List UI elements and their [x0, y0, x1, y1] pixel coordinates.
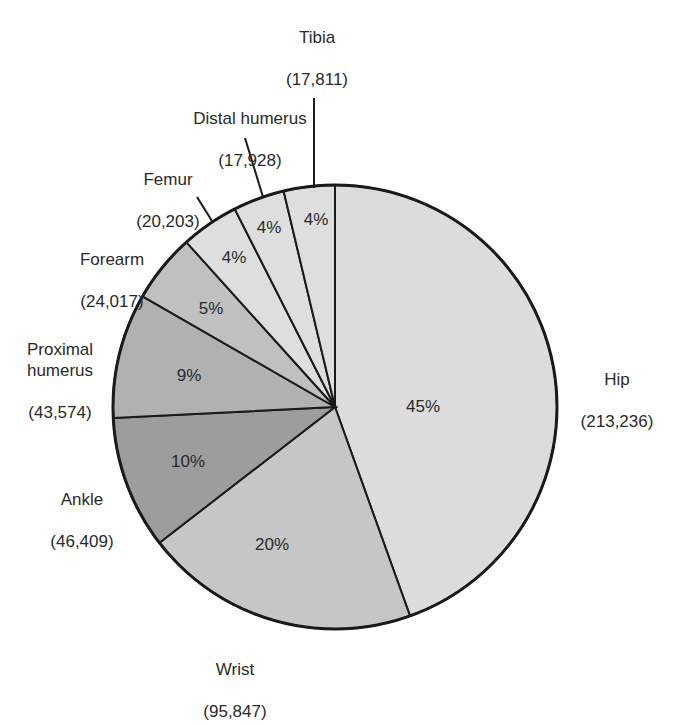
label-ankle: Ankle (46,409)	[32, 468, 132, 573]
label-proximal-humerus: Proximal humerus (43,574)	[10, 318, 110, 444]
pct-forearm: 5%	[199, 299, 224, 319]
pct-hip: 45%	[406, 397, 440, 417]
label-forearm-value: (24,017)	[62, 291, 162, 312]
label-ankle-value: (46,409)	[32, 531, 132, 552]
label-hip-value: (213,236)	[562, 411, 672, 432]
label-proximal-humerus-name: Proximal humerus	[10, 339, 110, 381]
pct-distal-humerus: 4%	[257, 218, 282, 238]
pct-tibia: 4%	[304, 210, 329, 230]
label-wrist: Wrist (95,847)	[185, 638, 285, 724]
pct-femur: 4%	[222, 248, 247, 268]
label-hip: Hip (213,236)	[562, 348, 672, 453]
pct-ankle: 10%	[171, 452, 205, 472]
label-wrist-value: (95,847)	[185, 701, 285, 722]
label-femur-name: Femur	[118, 169, 218, 190]
label-forearm-name: Forearm	[62, 249, 162, 270]
label-proximal-humerus-value: (43,574)	[10, 402, 110, 423]
pct-proximal-humerus: 9%	[177, 366, 202, 386]
pct-wrist: 20%	[255, 535, 289, 555]
label-hip-name: Hip	[562, 369, 672, 390]
label-tibia-name: Tibia	[262, 27, 372, 48]
label-distal-humerus-name: Distal humerus	[180, 108, 320, 129]
label-ankle-name: Ankle	[32, 489, 132, 510]
label-wrist-name: Wrist	[185, 659, 285, 680]
